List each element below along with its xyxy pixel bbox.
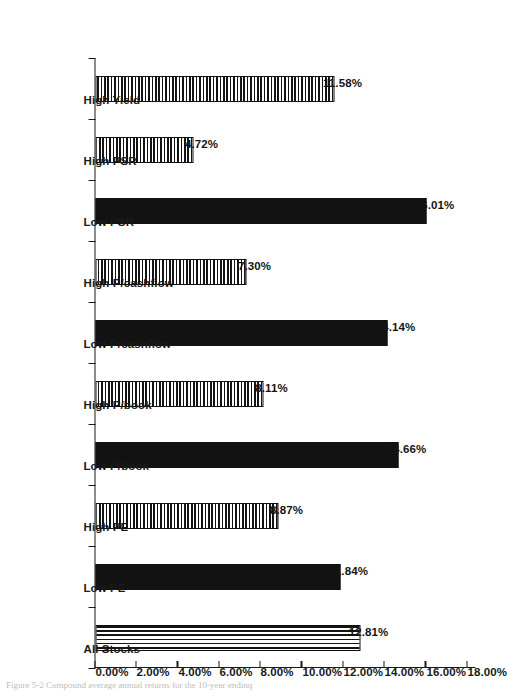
value-tick <box>424 661 425 668</box>
category-tick <box>88 546 95 547</box>
category-tick <box>88 607 95 608</box>
category-tick <box>88 180 95 181</box>
bar-value-label: 4.72% <box>184 138 217 150</box>
value-tick <box>176 661 177 668</box>
value-tick-label: 10.00% <box>302 666 342 678</box>
bar-value-label: 8.87% <box>270 504 303 516</box>
value-tick-label: 12.00% <box>343 666 383 678</box>
category-tick <box>88 363 95 364</box>
value-tick-label: 4.00% <box>178 666 211 678</box>
category-tick <box>88 485 95 486</box>
bar-value-label: 14.66% <box>386 443 426 455</box>
category-label-low-p-cashflow: Low P/cashflow <box>83 338 171 350</box>
bar-value-label: 7.30% <box>237 260 270 272</box>
bar-low-pe <box>95 564 340 590</box>
bar-low-psr <box>95 198 426 224</box>
category-label-high-psr: High PSR <box>83 155 136 167</box>
category-tick <box>88 302 95 303</box>
value-tick-label: 14.00% <box>384 666 424 678</box>
category-label-high-p-cashflow: High P/cashflow <box>83 277 173 289</box>
category-label-high-p-book: High P/book <box>83 399 151 411</box>
bar-value-label: 14.14% <box>375 321 415 333</box>
value-tick-label: 0.00% <box>95 666 128 678</box>
category-label-low-psr: Low PSR <box>83 216 134 228</box>
category-tick <box>88 58 95 59</box>
category-tick <box>88 119 95 120</box>
value-tick-label: 8.00% <box>260 666 293 678</box>
category-tick <box>88 668 95 669</box>
value-tick-label: 2.00% <box>136 666 169 678</box>
value-tick <box>300 661 301 668</box>
value-tick-label: 18.00% <box>467 666 507 678</box>
value-tick-label: 6.00% <box>219 666 252 678</box>
category-label-low-p-book: Low P/book <box>83 460 149 472</box>
category-label-high-pe: High PE <box>83 521 128 533</box>
bar-value-label: 12.81% <box>348 626 388 638</box>
category-label-all-stocks: All Stocks <box>83 643 140 655</box>
bar-value-label: 11.58% <box>323 77 362 89</box>
category-tick <box>88 424 95 425</box>
bar-value-label: 8.11% <box>254 382 286 394</box>
bars-layer <box>95 58 467 668</box>
category-tick <box>88 241 95 242</box>
figure-caption: Figure 5-2 Compound average annual retur… <box>6 680 252 690</box>
value-tick-label: 16.00% <box>426 666 466 678</box>
category-label-low-pe: Low PE <box>83 582 125 594</box>
bar-value-label: 16.01% <box>414 199 454 211</box>
bar-value-label: 11.84% <box>328 565 367 577</box>
category-label-high-yield: High Yield <box>83 94 140 106</box>
